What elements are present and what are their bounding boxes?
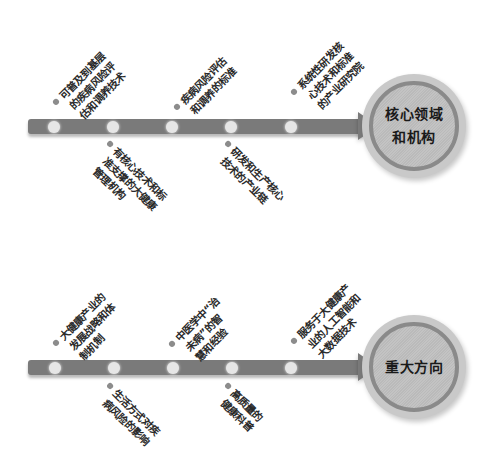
bullet-dot-icon [168, 340, 176, 348]
timeline-node-dot [285, 362, 297, 374]
timeline-node-dot [225, 121, 237, 133]
hub-circle-core-areas: 核心领域 和机构 [362, 74, 466, 178]
timeline-core-areas: 核心领域 和机构 可普及到基层 的疾病风险评 估和调养技术 疾病风险评估 和调养… [0, 0, 493, 238]
hub-label-line: 重大方向 [385, 356, 443, 379]
hub-inner-ring: 核心领域 和机构 [369, 81, 459, 171]
bullet-dot-icon [224, 382, 232, 390]
timeline-node-dot [166, 121, 178, 133]
timeline-node-dot [285, 121, 297, 133]
hub-inner-ring: 重大方向 [369, 322, 459, 412]
bullet-dot-icon [52, 339, 60, 347]
hub-label-line: 和机构 [392, 126, 436, 149]
bullet-dot-icon [290, 88, 298, 96]
hub-label-line: 核心领域 [385, 103, 443, 126]
bullet-dot-icon [52, 98, 60, 106]
bullet-dot-icon [290, 337, 298, 345]
bullet-dot-icon [106, 382, 114, 390]
timeline-node-dot [48, 121, 60, 133]
timeline-bar [28, 119, 362, 134]
bullet-dot-icon [173, 103, 181, 111]
timeline-node-dot [167, 362, 179, 374]
timeline-bar [28, 360, 362, 375]
bullet-dot-icon [224, 140, 232, 148]
hub-circle-major-directions: 重大方向 [362, 315, 466, 419]
timeline-node-dot [226, 362, 238, 374]
timeline-node-dot [108, 362, 120, 374]
timeline-node-dot [49, 362, 61, 374]
timeline-major-directions: 重大方向 大健康产业的 发展战略和体 制机制 中医学中“治 未病”的智 慧和经验… [0, 240, 493, 476]
timeline-node-dot [107, 121, 119, 133]
bullet-dot-icon [106, 140, 114, 148]
